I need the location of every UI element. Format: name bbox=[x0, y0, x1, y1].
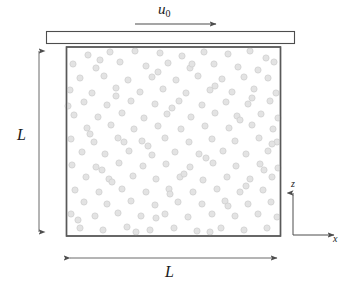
particle bbox=[202, 123, 208, 129]
particle bbox=[189, 61, 195, 67]
particle bbox=[128, 198, 134, 204]
particle bbox=[226, 125, 232, 131]
particle bbox=[199, 201, 205, 207]
particle bbox=[185, 214, 191, 220]
particle bbox=[69, 162, 75, 168]
particle bbox=[104, 201, 110, 207]
particle bbox=[268, 199, 274, 205]
particle bbox=[155, 123, 161, 129]
particle bbox=[218, 225, 224, 231]
particle bbox=[173, 77, 179, 83]
fluid-domain-box bbox=[67, 47, 281, 236]
particle bbox=[210, 160, 216, 166]
particle bbox=[271, 59, 277, 65]
particle bbox=[152, 101, 158, 107]
particle bbox=[153, 176, 159, 182]
particle bbox=[113, 93, 119, 99]
particle bbox=[79, 149, 85, 155]
particle bbox=[247, 48, 253, 54]
particle bbox=[104, 102, 110, 108]
particle bbox=[241, 227, 247, 233]
particle bbox=[149, 152, 155, 158]
particle bbox=[195, 73, 201, 79]
particle bbox=[209, 211, 215, 217]
particle bbox=[72, 187, 78, 193]
particle bbox=[257, 161, 263, 167]
particle bbox=[108, 122, 114, 128]
particle bbox=[212, 110, 218, 116]
particle bbox=[81, 99, 87, 105]
z-axis-label: z bbox=[291, 178, 295, 189]
particle bbox=[91, 139, 97, 145]
particle bbox=[245, 201, 251, 207]
particle bbox=[145, 143, 151, 149]
particle bbox=[187, 164, 193, 170]
particle bbox=[162, 135, 168, 141]
particle bbox=[264, 225, 270, 231]
particle bbox=[115, 210, 121, 216]
particle bbox=[139, 138, 145, 144]
particle bbox=[167, 191, 173, 197]
particle bbox=[162, 211, 168, 217]
height-label: L bbox=[17, 126, 26, 144]
particle bbox=[68, 136, 74, 142]
particle bbox=[124, 224, 130, 230]
particle bbox=[102, 151, 108, 157]
particle bbox=[95, 114, 101, 120]
x-axis-label: x bbox=[333, 233, 337, 244]
particle bbox=[212, 83, 218, 89]
particle bbox=[71, 112, 77, 118]
particle bbox=[125, 77, 131, 83]
particle bbox=[245, 101, 251, 107]
particle bbox=[225, 203, 231, 209]
particle bbox=[235, 64, 241, 70]
particle bbox=[75, 217, 81, 223]
particle bbox=[181, 171, 187, 177]
particle bbox=[169, 105, 175, 111]
particle bbox=[178, 126, 184, 132]
particle bbox=[256, 135, 262, 141]
particle bbox=[81, 199, 87, 205]
particle bbox=[99, 167, 105, 173]
particle bbox=[224, 174, 230, 180]
particle bbox=[93, 164, 99, 170]
particle bbox=[101, 73, 107, 79]
particle bbox=[201, 49, 207, 55]
particle bbox=[223, 99, 229, 105]
particle bbox=[113, 85, 119, 91]
particle bbox=[249, 95, 255, 101]
particle bbox=[128, 98, 134, 104]
particle bbox=[269, 141, 275, 147]
particle bbox=[149, 74, 155, 80]
particle bbox=[255, 67, 261, 73]
particle bbox=[263, 55, 269, 61]
particle bbox=[107, 49, 113, 55]
particle bbox=[68, 211, 74, 217]
particle bbox=[229, 89, 235, 95]
particle bbox=[100, 227, 106, 233]
particle bbox=[188, 114, 194, 120]
moving-top-plate bbox=[47, 32, 295, 44]
particle bbox=[179, 53, 185, 59]
particle bbox=[196, 151, 202, 157]
particle bbox=[186, 139, 192, 145]
particle bbox=[274, 214, 280, 220]
particle bbox=[117, 59, 123, 65]
particle bbox=[70, 61, 76, 67]
particle bbox=[211, 61, 217, 67]
particle bbox=[251, 86, 257, 92]
velocity-symbol: u bbox=[158, 1, 166, 17]
particle bbox=[200, 177, 206, 183]
particle bbox=[267, 98, 273, 104]
particle bbox=[97, 57, 103, 63]
particle bbox=[269, 174, 275, 180]
particle bbox=[143, 63, 149, 69]
particle bbox=[220, 148, 226, 154]
particle bbox=[258, 111, 264, 117]
particle bbox=[143, 189, 149, 195]
particle bbox=[126, 148, 132, 154]
particle bbox=[249, 122, 255, 128]
particle bbox=[207, 229, 213, 235]
particle bbox=[190, 189, 196, 195]
particle bbox=[115, 135, 121, 141]
